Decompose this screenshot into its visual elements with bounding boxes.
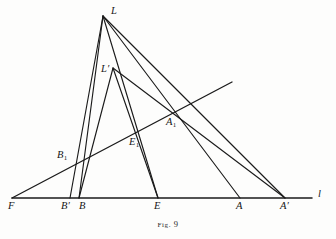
point-label-Bp: B′ xyxy=(61,201,70,212)
segment-Lprime-to-E xyxy=(113,68,158,198)
point-label-E1: E1 xyxy=(129,137,139,148)
figure-container: FB′BEAA′LL′B1E1A1l Fig. 9 xyxy=(0,0,336,239)
point-label-E: E xyxy=(154,201,161,212)
segments-layer xyxy=(12,16,312,198)
point-label-B: B xyxy=(79,201,86,212)
point-label-F: F xyxy=(8,201,15,212)
point-label-Ap: A′ xyxy=(280,201,289,212)
figure-caption: Fig. 9 xyxy=(0,219,336,229)
point-label-L: L xyxy=(111,6,117,17)
segment-L-to-Lprime-B xyxy=(79,16,103,198)
point-label-A1: A1 xyxy=(166,117,176,128)
point-label-B1: B1 xyxy=(57,150,67,161)
segment-transversal-F-A1 xyxy=(12,82,232,198)
line-label-l: l xyxy=(318,189,321,200)
point-label-A: A xyxy=(236,201,243,212)
point-label-Lp: L′ xyxy=(101,64,109,75)
caption-prefix: Fig. xyxy=(158,221,172,229)
segment-Lprime-to-B1-B xyxy=(79,68,113,198)
caption-number: 9 xyxy=(174,219,179,229)
segment-L-to-A1-A xyxy=(103,16,240,198)
